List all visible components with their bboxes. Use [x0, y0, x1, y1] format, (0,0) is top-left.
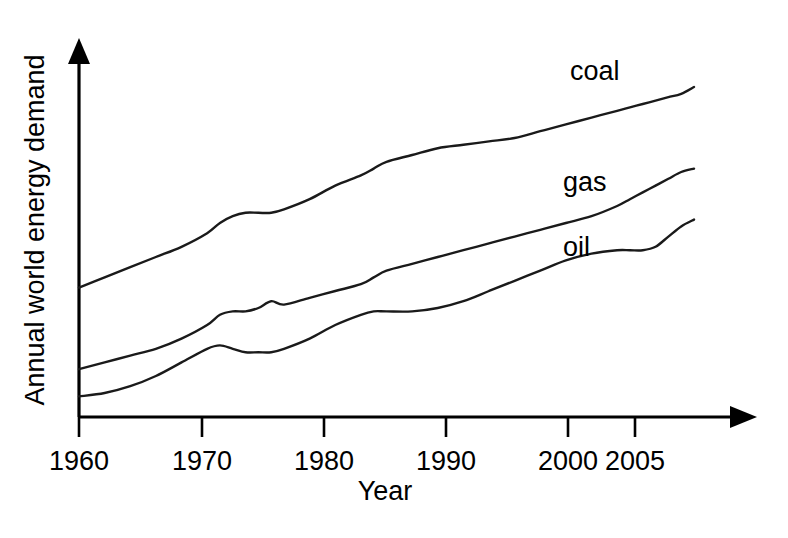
x-axis-tick-labels: 1960 1970 1980 1990 2000 2005: [49, 446, 665, 476]
x-axis-title: Year: [358, 476, 413, 506]
energy-demand-chart: 1960 1970 1980 1990 2000 2005 Year Annua…: [0, 0, 788, 538]
series-group: [79, 87, 694, 396]
x-tick-label-1970: 1970: [172, 446, 232, 476]
x-tick-label-1960: 1960: [49, 446, 109, 476]
x-tick-label-2000: 2000: [538, 446, 598, 476]
x-tick-label-1990: 1990: [416, 446, 476, 476]
chart-canvas: 1960 1970 1980 1990 2000 2005 Year Annua…: [0, 0, 788, 538]
series-line-oil: [79, 220, 694, 397]
x-tick-label-1980: 1980: [294, 446, 354, 476]
x-axis-ticks: [79, 417, 635, 437]
y-axis-title: Annual world energy demand: [20, 54, 50, 405]
y-axis-arrow-icon: [68, 38, 90, 64]
series-label-oil: oil: [563, 232, 590, 262]
series-label-gas: gas: [563, 167, 607, 197]
series-label-coal: coal: [570, 56, 620, 86]
series-line-gas: [79, 169, 694, 370]
x-tick-label-2005: 2005: [605, 446, 665, 476]
x-axis-arrow-icon: [730, 406, 757, 428]
